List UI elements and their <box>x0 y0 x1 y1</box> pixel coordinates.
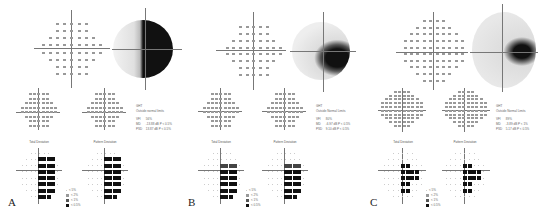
total-deviation-grid <box>202 92 240 128</box>
pattern-deviation-probability <box>86 150 126 200</box>
grayscale-haxis <box>470 52 538 53</box>
psd-value: 5.17 dB P < 0.5% <box>506 127 529 132</box>
total-deviation-grid <box>20 92 58 128</box>
panel-letter: B <box>188 196 195 208</box>
panel-letter: A <box>8 196 16 208</box>
pattern-deviation-probability <box>266 150 306 200</box>
pattern-deviation-grid <box>86 92 124 128</box>
legend-05: < 0.5% <box>431 203 440 208</box>
total-deviation-label: Total Deviation <box>24 140 54 144</box>
panel-letter: C <box>370 196 377 208</box>
total-deviation-probability <box>202 150 242 200</box>
pattern-deviation-label: Pattern Deviation <box>90 140 120 144</box>
total-deviation-grid <box>380 90 424 128</box>
stats-block: GHT Outside Normal Limits VFI 80% MD -6.… <box>316 104 350 132</box>
psd-label: PSD <box>496 127 505 132</box>
grayscale-haxis <box>112 49 182 50</box>
grayscale-vaxis <box>323 12 324 92</box>
legend-05: < 0.5% <box>71 203 80 208</box>
psd-label: PSD <box>136 127 145 132</box>
probability-legend: < 5% < 2% < 1% < 0.5% <box>426 188 440 208</box>
threshold-grid <box>224 24 284 78</box>
panel-c: Total Deviation Pattern Deviation GHT Ou… <box>364 0 546 216</box>
probability-legend: < 5% < 2% < 1% < 0.5% <box>66 188 80 208</box>
total-deviation-probability <box>382 150 424 200</box>
total-deviation-label: Total Deviation <box>206 140 236 144</box>
pattern-deviation-label: Pattern Deviation <box>450 140 480 144</box>
pattern-deviation-grid <box>266 92 304 128</box>
pattern-deviation-probability <box>444 150 486 200</box>
pattern-deviation-grid <box>444 90 488 128</box>
threshold-grid <box>402 18 466 84</box>
pattern-deviation-label: Pattern Deviation <box>270 140 300 144</box>
legend-05: < 0.5% <box>251 203 260 208</box>
stats-block: GHT Outside Normal Limits VFI 89% MD -3.… <box>496 104 529 132</box>
psd-value: 9.10 dB P < 0.5% <box>326 127 349 132</box>
grayscale-haxis <box>290 51 356 52</box>
threshold-grid <box>40 20 104 78</box>
psd-label: PSD <box>316 127 325 132</box>
ght-value: Outside Normal Limits <box>316 109 350 114</box>
total-deviation-probability <box>20 150 60 200</box>
ght-value: Outside Normal Limits <box>496 109 529 114</box>
grayscale-vaxis <box>502 4 503 92</box>
panel-a: Total Deviation Pattern Deviation GHT Ou… <box>0 0 182 216</box>
total-deviation-label: Total Deviation <box>388 140 418 144</box>
grayscale-map <box>472 12 536 88</box>
psd-value: 13.87 dB P < 0.5% <box>146 127 171 132</box>
stats-block: GHT Outside normal limits VFI 56% MD -13… <box>136 104 172 132</box>
panel-b: Total Deviation Pattern Deviation GHT Ou… <box>182 0 364 216</box>
probability-legend: < 5% < 2% < 1% < 0.5% <box>246 188 260 208</box>
